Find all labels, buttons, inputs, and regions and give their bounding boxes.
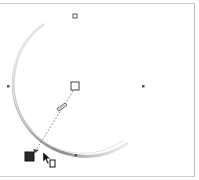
circle-object[interactable]: [13, 24, 128, 156]
top-node-handle[interactable]: [73, 14, 77, 18]
start-handle[interactable]: [71, 82, 79, 90]
drawing-layer: [0, 0, 199, 180]
document-cursor-badge-icon: [50, 160, 55, 167]
arrow-cursor-icon: [43, 152, 55, 167]
circle-inner-arc: [13, 26, 124, 153]
end-handle[interactable]: [25, 152, 34, 161]
bottom-node-handle[interactable]: [75, 154, 78, 157]
right-node-handle[interactable]: [142, 85, 145, 88]
midpoint-slider[interactable]: [57, 103, 67, 111]
left-node-handle[interactable]: [7, 85, 10, 88]
